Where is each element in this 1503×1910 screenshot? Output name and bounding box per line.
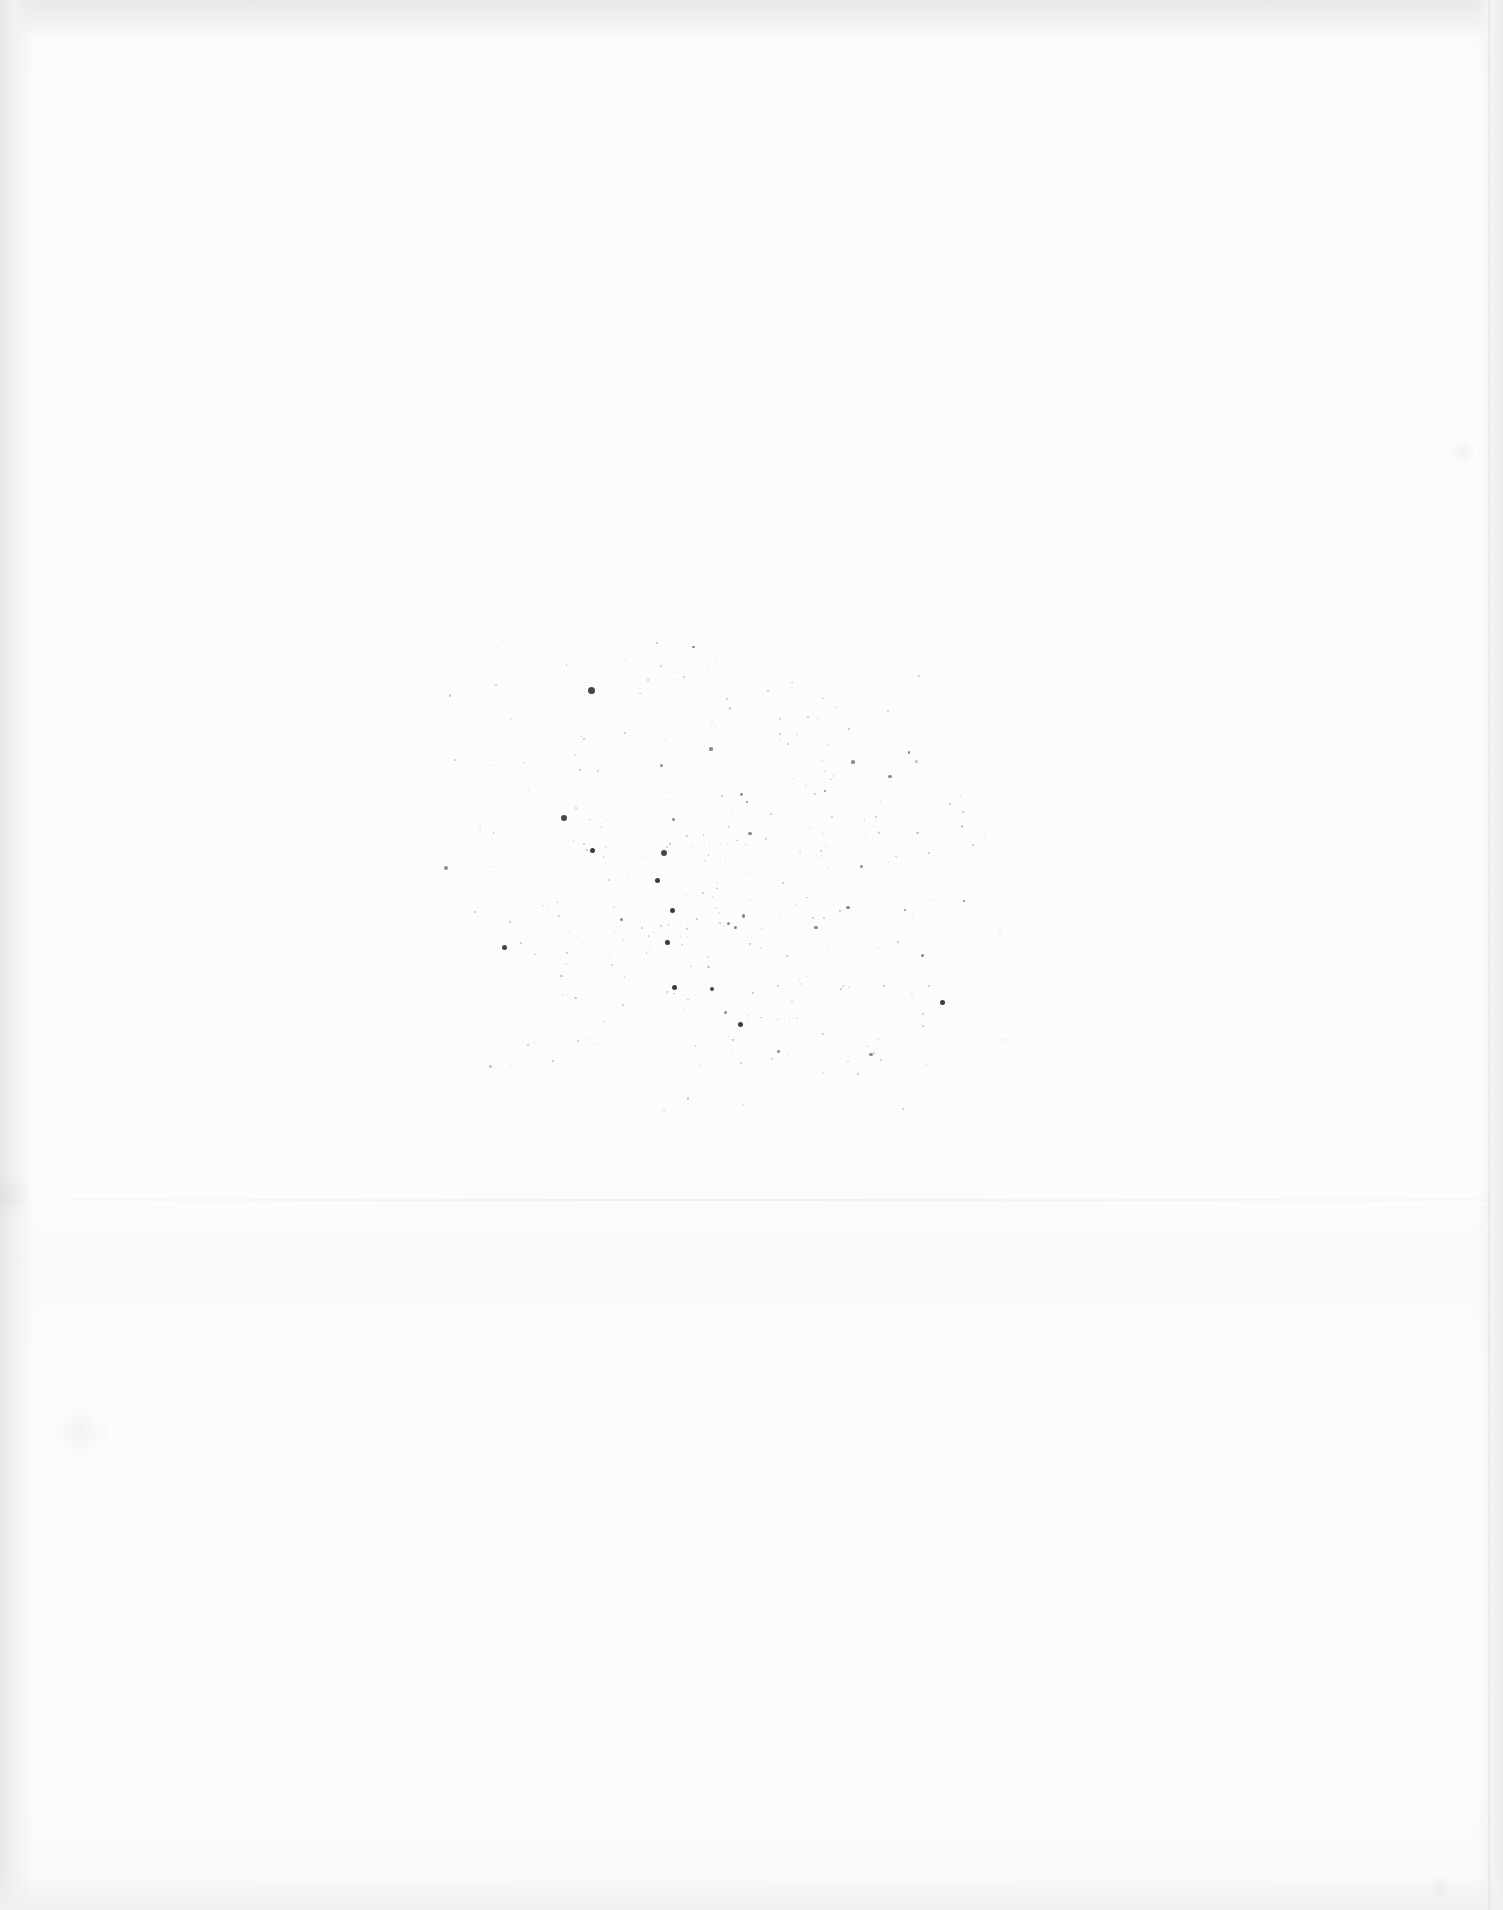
bottom-edge-vignette	[0, 1874, 1503, 1910]
lower-right-faint-mark	[1428, 1876, 1452, 1900]
horizontal-tone-seam	[0, 1199, 1503, 1201]
left-edge-vignette	[0, 0, 34, 1910]
right-margin-faint-mark	[1449, 438, 1477, 466]
paper-grain-texture	[0, 0, 1503, 1910]
lower-left-faint-mark	[50, 1402, 110, 1462]
scanned-page	[0, 0, 1503, 1910]
vertical-scan-seam	[1488, 0, 1491, 1910]
top-edge-vignette	[0, 0, 1503, 40]
